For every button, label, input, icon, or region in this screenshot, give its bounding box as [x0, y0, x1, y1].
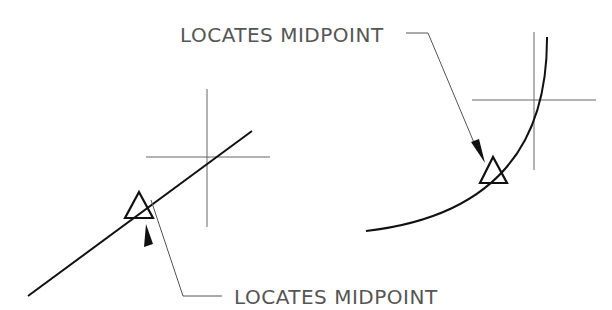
arc-callout-label: LOCATES MIDPOINT	[180, 23, 384, 47]
line-segment	[28, 131, 252, 296]
leader-line	[151, 200, 222, 296]
arrowhead-icon	[144, 224, 153, 247]
line-callout-label: LOCATES MIDPOINT	[234, 285, 438, 309]
leader-line	[406, 33, 475, 145]
line-figure	[28, 89, 270, 296]
midpoint-snap-diagram: LOCATES MIDPOINT LOCATES MIDPOINT	[0, 0, 612, 310]
arc-curve	[366, 37, 547, 231]
arc-figure	[366, 32, 596, 231]
arrowhead-icon	[471, 139, 485, 163]
